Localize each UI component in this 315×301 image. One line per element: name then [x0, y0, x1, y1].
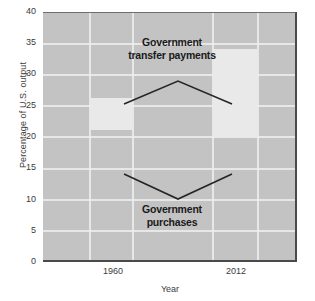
purchases-label-line1: Government: [108, 203, 236, 216]
x-axis-title: Year: [43, 284, 297, 294]
transfer-payments-line: [124, 81, 232, 104]
transfer-payments-label: Government transfer payments: [108, 36, 236, 62]
purchases-label-line2: purchases: [108, 216, 236, 229]
x-tick-2012: 2012: [213, 266, 259, 276]
chart-figure: Percentage of U.S. output 40 35 30 25 20…: [0, 0, 315, 301]
y-tick-30: 30: [8, 68, 36, 78]
x-tick-1960: 1960: [90, 266, 136, 276]
purchases-label: Government purchases: [108, 203, 236, 229]
transfer-payments-label-line2: transfer payments: [108, 49, 236, 62]
y-tick-25: 25: [8, 100, 36, 110]
y-tick-35: 35: [8, 37, 36, 47]
y-tick-15: 15: [8, 162, 36, 172]
y-tick-10: 10: [8, 194, 36, 204]
y-tick-40: 40: [8, 6, 36, 16]
transfer-payments-label-line1: Government: [108, 36, 236, 49]
y-tick-5: 5: [8, 225, 36, 235]
y-tick-0: 0: [8, 256, 36, 266]
purchases-line: [124, 174, 232, 199]
y-tick-20: 20: [8, 131, 36, 141]
